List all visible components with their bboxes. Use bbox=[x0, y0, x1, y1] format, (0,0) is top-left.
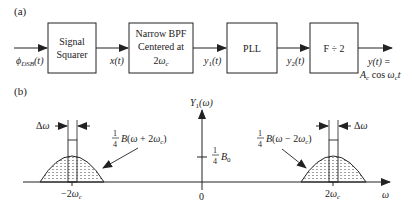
part-a-block-diagram: (a) ϕDSB(t) Signal Squarer x(t) Narrow B… bbox=[14, 5, 401, 82]
svg-text:1: 1 bbox=[258, 129, 262, 138]
output-line2: Ac cos ωct bbox=[359, 69, 401, 82]
svg-text:4: 4 bbox=[258, 140, 262, 149]
right-spectrum-bump bbox=[301, 156, 366, 182]
output-line1: y(t) = bbox=[367, 56, 390, 68]
signal-squarer-line2: Squarer bbox=[56, 49, 88, 60]
left-bump-label: B(ω + 2ωc) bbox=[121, 133, 167, 146]
left-center-label: −2ωc bbox=[61, 188, 83, 201]
freq-divider-label: F ÷ 2 bbox=[323, 43, 344, 54]
right-center-label: 2ωc bbox=[325, 188, 341, 201]
left-delta-omega-label: Δω bbox=[36, 120, 50, 131]
left-spectrum-bump bbox=[40, 156, 104, 182]
part-b-spectrum: (b) Y1(ω) ω 0 1 4 B0 −2ωc Δω 1 4 B(ω + 2… bbox=[14, 85, 390, 202]
y1-signal-label: y1(t) bbox=[203, 55, 222, 68]
svg-text:4: 4 bbox=[113, 140, 117, 149]
pll-label: PLL bbox=[243, 43, 261, 54]
dc-fraction-den: 4 bbox=[213, 157, 217, 166]
part-a-label: (a) bbox=[14, 5, 27, 18]
bpf-line1: Narrow BPF bbox=[136, 28, 187, 39]
dc-fraction-num: 1 bbox=[213, 146, 217, 155]
y2-signal-label: y2(t) bbox=[286, 55, 305, 68]
x-axis-label: ω bbox=[382, 189, 389, 200]
svg-text:1: 1 bbox=[113, 129, 117, 138]
left-bump-pointer bbox=[103, 148, 138, 168]
bpf-line2: Centered at bbox=[138, 41, 184, 52]
dc-level-label: B0 bbox=[221, 151, 231, 164]
x-signal-label: x(t) bbox=[109, 55, 125, 67]
input-signal-label: ϕDSB(t) bbox=[16, 55, 44, 68]
right-bump-pointer bbox=[282, 149, 306, 168]
diagram-canvas: (a) ϕDSB(t) Signal Squarer x(t) Narrow B… bbox=[0, 0, 412, 208]
right-bump-label: B(ω − 2ωc) bbox=[266, 133, 312, 146]
y-axis-label: Y1(ω) bbox=[190, 97, 213, 110]
signal-squarer-line1: Signal bbox=[59, 36, 85, 47]
right-delta-omega-label: Δω bbox=[354, 120, 368, 131]
signal-squarer-block bbox=[48, 23, 96, 73]
part-b-label: (b) bbox=[14, 85, 27, 98]
origin-label: 0 bbox=[199, 191, 204, 202]
